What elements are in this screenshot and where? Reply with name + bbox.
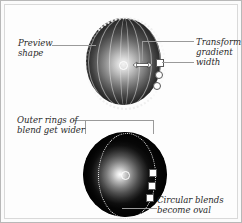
callout-transform-line-3: width bbox=[196, 57, 241, 67]
callout-preview-shape-line-1: Preview bbox=[18, 38, 53, 48]
leader-outer-rings-horizontal bbox=[85, 120, 154, 121]
callout-preview-shape-line-2: shape bbox=[18, 48, 53, 58]
callout-transform-gradient-width: Transform gradient width bbox=[196, 37, 241, 68]
top-sphere-blend-handle-2[interactable] bbox=[153, 82, 161, 90]
callout-outer-rings: Outer rings of blend get wider bbox=[17, 115, 85, 135]
callout-outer-rings-line-2: blend get wider bbox=[17, 125, 85, 135]
figure-inner-frame: Preview shape Transform gradient width O… bbox=[4, 4, 238, 219]
callout-transform-line-2: gradient bbox=[196, 47, 241, 57]
callout-circular-blends-line-2: become oval bbox=[157, 205, 224, 215]
callout-circular-blends: Circular blends become oval bbox=[157, 195, 224, 215]
illustration-figure: Preview shape Transform gradient width O… bbox=[0, 0, 242, 223]
leader-transform-horizontal bbox=[142, 41, 194, 42]
bottom-sphere-width-handle[interactable] bbox=[149, 169, 157, 177]
bottom-sphere-blend-handle-1[interactable] bbox=[148, 182, 156, 190]
leader-outer-rings-tick-left bbox=[85, 120, 86, 134]
top-sphere-width-handle[interactable] bbox=[156, 59, 164, 67]
bottom-sphere-blend-handle-2[interactable] bbox=[146, 194, 154, 202]
leader-outer-rings-tick-right bbox=[153, 120, 154, 134]
callout-outer-rings-line-1: Outer rings of bbox=[17, 115, 85, 125]
leader-transform-vertical bbox=[142, 41, 143, 61]
leader-preview-shape bbox=[52, 45, 96, 46]
top-sphere-center-point-marker bbox=[119, 61, 128, 70]
leader-gradient-width-handle bbox=[162, 62, 194, 63]
horizontal-resize-arrow-icon bbox=[133, 60, 152, 70]
bottom-sphere-center-point-marker bbox=[121, 171, 130, 180]
top-sphere-blend-handle-1[interactable] bbox=[155, 71, 163, 79]
callout-transform-line-1: Transform bbox=[196, 37, 241, 47]
callout-preview-shape: Preview shape bbox=[18, 38, 53, 58]
leader-circular-blends bbox=[122, 208, 157, 209]
callout-circular-blends-line-1: Circular blends bbox=[157, 195, 224, 205]
